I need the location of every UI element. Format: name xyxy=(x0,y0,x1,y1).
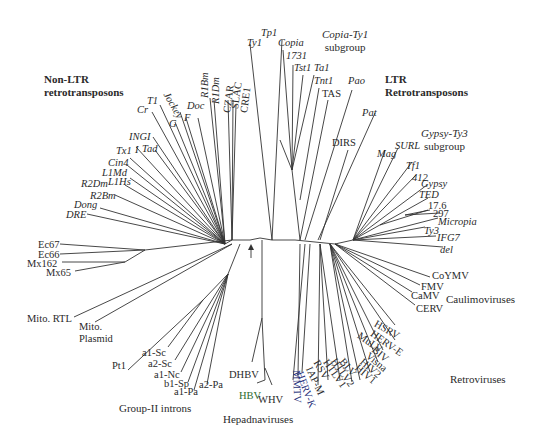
group-title-line: Gypsy-Ty3 xyxy=(421,127,468,140)
leaf-label: IFG7 xyxy=(437,232,460,243)
leaf-label: CaMV xyxy=(411,290,440,301)
leaf-label: Pat xyxy=(362,107,377,118)
leaf-label: Ta1 xyxy=(314,62,329,73)
leaf-label: Tx1 xyxy=(116,145,132,156)
leaf-label: F xyxy=(184,112,190,123)
leaf-label: DIRS xyxy=(332,137,356,148)
leaf-label: Tad xyxy=(142,143,157,154)
group-title-group-ii-introns: Group-II introns xyxy=(119,402,191,415)
group-title-gypsy: Gypsy-Ty3 subgroup xyxy=(421,127,468,153)
leaf-label: L1Md xyxy=(102,167,127,178)
group-title-line: Non-LTR xyxy=(44,73,124,86)
leaf-label: Pt1 xyxy=(112,360,126,371)
leaf-label: a1-Pa xyxy=(174,386,198,397)
leaf-label: a2-Pa xyxy=(199,379,223,390)
group-title-hepadnaviruses: Hepadnaviruses xyxy=(223,413,293,426)
leaf-label: G xyxy=(169,118,177,129)
group-title-line: retrotransposons xyxy=(44,86,124,99)
leaf-label: Tst1 xyxy=(294,62,311,73)
leaf-label: MMTV xyxy=(291,370,303,403)
leaf-label: Cin4 xyxy=(108,157,128,168)
leaf-label: TAS xyxy=(322,88,341,99)
leaf-label: INGI xyxy=(129,131,151,142)
leaf-label: R1Dm xyxy=(210,77,221,104)
group-title-caulimoviruses: Caulimoviruses xyxy=(446,293,515,306)
leaf-label: I xyxy=(135,144,139,155)
leaf-label: a2-Sc xyxy=(148,358,172,369)
leaf-label: Doc xyxy=(187,100,205,111)
leaf-label: Gypsy xyxy=(421,178,447,189)
group-title-line: LTR xyxy=(385,73,468,86)
leaf-label: Tp1 xyxy=(261,27,277,38)
leaf-label: SURL xyxy=(395,140,420,151)
leaf-label: R2Bm xyxy=(90,190,116,201)
leaf-label: del xyxy=(440,244,453,255)
leaf-label: Plasmid xyxy=(79,333,113,344)
leaf-label: R1Bm xyxy=(199,72,210,98)
group-title-ltr: LTR Retrotransposons xyxy=(385,73,468,99)
leaf-label: Tnt1 xyxy=(314,75,333,86)
group-title-copia: Copia-Ty1 subgroup xyxy=(322,28,368,54)
leaf-label: a1-Sc xyxy=(142,347,166,358)
leaf-label: Ty1 xyxy=(247,37,262,48)
group-title-line: Copia-Ty1 xyxy=(322,28,368,41)
leaf-label: TED xyxy=(419,189,439,200)
leaf-label: Mito. xyxy=(79,321,102,332)
leaf-label: CERV xyxy=(416,303,443,314)
leaf-label: Pao xyxy=(348,75,365,86)
group-title-retroviruses: Retroviruses xyxy=(450,373,506,386)
group-title-line: subgroup xyxy=(322,41,368,54)
leaf-label: Copia xyxy=(278,37,304,48)
group-title-non-ltr: Non-LTR retrotransposons xyxy=(44,73,124,99)
leaf-label: CoYMV xyxy=(432,270,469,281)
leaf-label: Mito. RTL xyxy=(27,313,72,324)
leaf-label: Tf1 xyxy=(406,160,420,171)
leaf-label: Mag xyxy=(377,148,396,159)
leaf-label: DHBV xyxy=(229,369,259,380)
leaf-label: Mx65 xyxy=(46,267,71,278)
leaf-label: T1 xyxy=(147,95,158,106)
group-title-line: subgroup xyxy=(421,140,468,153)
leaf-label: WHV xyxy=(258,394,283,405)
leaf-label: DRE xyxy=(66,209,86,220)
leaf-label: Micropia xyxy=(438,216,477,227)
leaf-label: R2Dm xyxy=(81,178,108,189)
group-title-line: Retrotransposons xyxy=(385,86,468,99)
leaf-label: 1731 xyxy=(286,50,307,61)
